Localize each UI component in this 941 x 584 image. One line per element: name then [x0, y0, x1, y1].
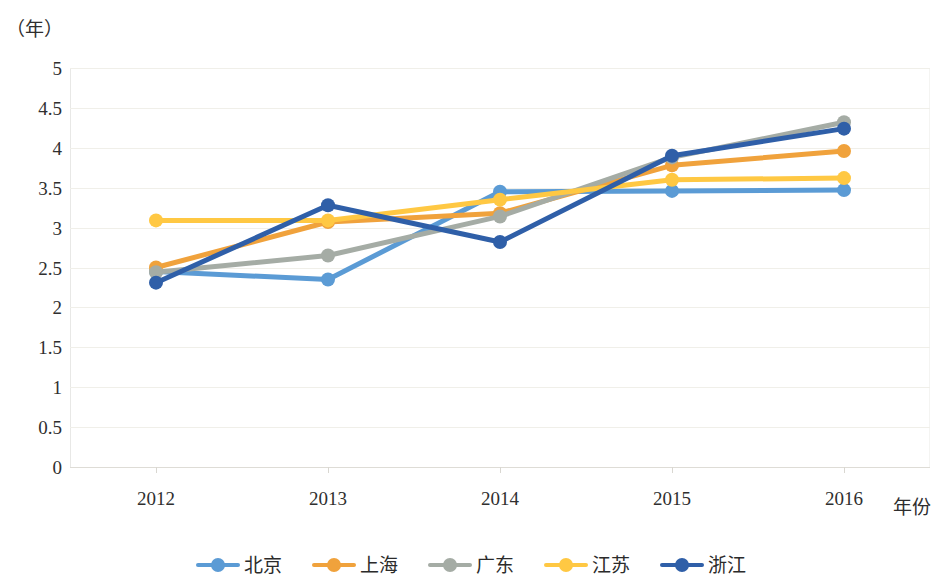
- data-point: [665, 149, 679, 163]
- legend-dot: [443, 558, 457, 572]
- chart-legend: 北京上海广东江苏浙江: [0, 548, 941, 582]
- y-axis-tick-label: 0: [14, 458, 62, 477]
- legend-marker-icon: [312, 558, 356, 572]
- y-axis-tick-label: 0.5: [14, 418, 62, 437]
- legend-label: 浙江: [708, 556, 746, 575]
- y-axis-tick-label: 5: [14, 59, 62, 78]
- x-axis-tick-label: 2012: [137, 489, 175, 508]
- y-axis-tick-label: 1: [14, 378, 62, 397]
- legend-item-江苏[interactable]: 江苏: [544, 556, 630, 575]
- x-axis-tick-label: 2016: [825, 489, 863, 508]
- data-point: [837, 171, 851, 185]
- x-axis-tick-label: 2013: [309, 489, 347, 508]
- y-axis-tick-labels: 54.543.532.521.510.50: [8, 68, 62, 467]
- legend-item-浙江[interactable]: 浙江: [660, 556, 746, 575]
- line-chart: （年） 54.543.532.521.510.50 20122013201420…: [0, 0, 941, 584]
- y-axis-tick-label: 3.5: [14, 178, 62, 197]
- data-point: [493, 235, 507, 249]
- data-point: [321, 272, 335, 286]
- x-axis-tick-label: 2014: [481, 489, 519, 508]
- x-axis-title: 年份: [893, 492, 931, 519]
- legend-label: 广东: [476, 556, 514, 575]
- data-point: [321, 249, 335, 263]
- legend-dot: [327, 558, 341, 572]
- data-point: [321, 198, 335, 212]
- legend-item-广东[interactable]: 广东: [428, 556, 514, 575]
- legend-item-北京[interactable]: 北京: [196, 556, 282, 575]
- legend-marker-icon: [544, 558, 588, 572]
- data-point: [321, 213, 335, 227]
- x-axis-tick-label: 2015: [653, 489, 691, 508]
- x-axis-tick-mark: [672, 467, 673, 473]
- data-point: [493, 209, 507, 223]
- legend-label: 江苏: [592, 556, 630, 575]
- data-point: [837, 183, 851, 197]
- y-axis-unit-label: （年）: [6, 14, 63, 41]
- data-point: [837, 144, 851, 158]
- series-上海: [149, 144, 851, 275]
- legend-dot: [559, 558, 573, 572]
- x-axis-tick-mark: [844, 467, 845, 473]
- y-axis-tick-label: 2: [14, 298, 62, 317]
- legend-dot: [675, 558, 689, 572]
- y-axis-tick-label: 4: [14, 138, 62, 157]
- data-point: [837, 122, 851, 136]
- legend-marker-icon: [660, 558, 704, 572]
- plot-area: [70, 68, 930, 467]
- y-axis-tick-label: 1.5: [14, 338, 62, 357]
- x-axis-tick-mark: [156, 467, 157, 473]
- legend-label: 北京: [244, 556, 282, 575]
- x-axis-tick-mark: [500, 467, 501, 473]
- legend-dot: [211, 558, 225, 572]
- x-axis-tick-labels: 20122013201420152016: [70, 489, 930, 517]
- data-point: [149, 213, 163, 227]
- series-layer: [70, 68, 930, 467]
- x-axis-tick-mark: [328, 467, 329, 473]
- legend-marker-icon: [196, 558, 240, 572]
- data-point: [149, 276, 163, 290]
- y-axis-tick-label: 4.5: [14, 98, 62, 117]
- y-axis-tick-label: 2.5: [14, 258, 62, 277]
- legend-label: 上海: [360, 556, 398, 575]
- legend-marker-icon: [428, 558, 472, 572]
- data-point: [493, 193, 507, 207]
- legend-item-上海[interactable]: 上海: [312, 556, 398, 575]
- y-axis-tick-label: 3: [14, 218, 62, 237]
- data-point: [665, 173, 679, 187]
